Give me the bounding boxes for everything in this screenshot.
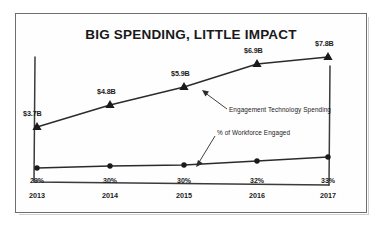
data-label-workforce-2016: 32% [240,177,274,184]
chart-card: BIG SPENDING, LITTLE IMPACT $3.7B $4.8B … [15,13,367,213]
data-label-spending-2014: $4.8B [97,87,116,96]
axis-right [329,66,330,185]
data-label-spending-2013: $3.7B [23,109,42,118]
data-label-workforce-2014: 30% [93,177,127,184]
marker-triangle-2017 [323,52,332,60]
leader-line-spending [204,92,227,109]
axis-tick-2017: 2017 [311,191,345,200]
data-label-spending-2017: $7.8B [315,39,334,48]
data-label-spending-2016: $6.9B [244,46,263,55]
marker-dot-2014 [107,163,112,168]
data-label-workforce-2015: 30% [167,177,201,184]
series-line-spending [37,57,328,127]
axis-tick-2013: 2013 [20,191,54,200]
leader-arrow-spending [202,90,209,97]
axis-tick-2016: 2016 [240,191,274,200]
marker-dot-2017 [325,154,330,159]
leader-line-workforce [198,136,215,164]
marker-dot-2013 [34,165,39,170]
axis-tick-2014: 2014 [93,191,127,200]
annotation-workforce: % of Workforce Engaged [217,129,290,136]
data-label-workforce-2013: 29% [20,177,54,184]
data-label-spending-2015: $5.9B [171,69,190,78]
leader-arrow-workforce [196,160,203,167]
axis-tick-2015: 2015 [167,191,201,200]
data-label-workforce-2017: 33% [311,177,345,184]
marker-dot-2015 [181,162,186,167]
marker-dot-2016 [254,158,259,163]
annotation-spending: Engagement Technology Spending [229,106,331,113]
